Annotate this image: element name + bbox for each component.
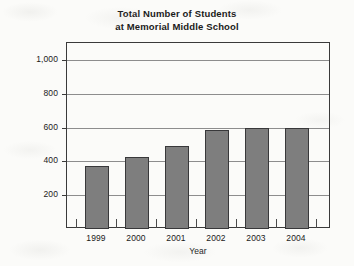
y-axis-tick [62,161,67,162]
gridline [67,94,329,95]
x-axis-divider [276,219,277,228]
x-axis-label: 1999 [76,233,116,243]
x-axis-divider [236,219,237,228]
chart-title-line-1: Total Number of Students [0,8,354,21]
x-axis-divider [116,219,117,228]
x-axis-title: Year [66,246,330,256]
y-axis-tick [62,60,67,61]
bar [125,157,149,229]
x-axis-label: 2003 [236,233,276,243]
y-axis-label: 200 [18,189,58,199]
x-axis-label: 2000 [116,233,156,243]
y-axis-tick [62,128,67,129]
x-axis-divider [196,219,197,228]
x-axis-label: 2001 [156,233,196,243]
bar [285,128,309,229]
plot-area [66,42,330,228]
bar [165,146,189,229]
plot-inner [67,43,329,227]
y-axis-tick [62,195,67,196]
gridline [67,60,329,61]
x-axis-label: 2002 [196,233,236,243]
x-axis-divider [156,219,157,228]
y-axis-label: 600 [18,122,58,132]
x-axis-label: 2004 [276,233,316,243]
y-axis-label: 800 [18,88,58,98]
y-axis-label: 400 [18,155,58,165]
x-axis-divider [316,219,317,228]
bar [85,166,109,229]
bar [245,128,269,229]
chart-title-line-2: at Memorial Middle School [0,21,354,34]
y-axis-label: 1,000 [18,54,58,64]
bar [205,130,229,229]
chart-title: Total Number of Students at Memorial Mid… [0,8,354,33]
x-axis-divider [76,219,77,228]
y-axis-tick [62,94,67,95]
